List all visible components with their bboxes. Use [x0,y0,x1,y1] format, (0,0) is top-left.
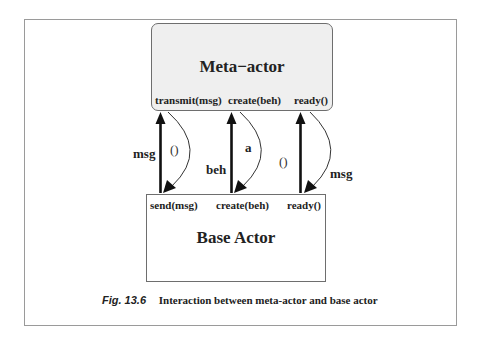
arrow-pair-ready [296,112,331,193]
down-arrowhead-icon [304,180,317,193]
flow-label-unit-down: () [170,142,179,158]
down-arrowhead-icon [163,180,176,193]
flow-label-a-down: a [245,140,252,156]
arrow-pair-create [227,112,262,193]
down-curve-msg [310,112,331,186]
figure-number: Fig. 13.6 [102,294,146,306]
up-arrowhead-icon [156,112,166,124]
up-arrowhead-icon [296,112,306,124]
flow-label-beh-up: beh [206,162,226,178]
up-arrowhead-icon [227,112,237,124]
caption-text: Interaction between meta-actor and base … [159,294,378,306]
figure-caption: Fig. 13.6 Interaction between meta-actor… [102,294,378,306]
flow-label-msg-down: msg [330,166,352,182]
down-arrowhead-icon [234,180,247,193]
flow-label-unit-up: () [279,154,288,170]
flow-label-msg-up: msg [133,146,155,162]
